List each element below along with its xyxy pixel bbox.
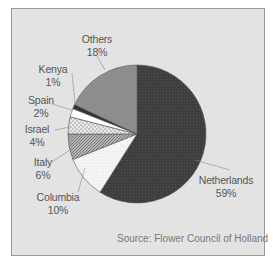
label-kenya: Kenya 1%: [34, 63, 72, 89]
label-others: Others 18%: [77, 33, 117, 59]
label-netherlands-pct: 59%: [194, 187, 258, 200]
label-spain-name: Spain: [23, 94, 59, 107]
label-others-pct: 18%: [77, 46, 117, 59]
leader-netherlands: [195, 160, 230, 170]
label-netherlands-name: Netherlands: [194, 174, 258, 187]
label-italy: Italy 6%: [28, 156, 58, 182]
label-kenya-name: Kenya: [34, 63, 72, 76]
label-israel-name: Israel: [20, 123, 54, 136]
leader-israel: [55, 127, 70, 130]
label-italy-pct: 6%: [28, 169, 58, 182]
label-spain: Spain 2%: [23, 94, 59, 120]
label-israel: Israel 4%: [20, 123, 54, 149]
source-caption: Source: Flower Council of Holland: [117, 233, 268, 244]
label-israel-pct: 4%: [20, 136, 54, 149]
label-columbia-name: Columbia: [33, 191, 83, 204]
label-columbia-pct: 10%: [33, 204, 83, 217]
label-netherlands: Netherlands 59%: [194, 174, 258, 200]
leader-kenya: [72, 73, 75, 104]
label-columbia: Columbia 10%: [33, 191, 83, 217]
pie-slices: [68, 65, 206, 203]
label-kenya-pct: 1%: [34, 76, 72, 89]
label-spain-pct: 2%: [23, 107, 59, 120]
label-others-name: Others: [77, 33, 117, 46]
label-italy-name: Italy: [28, 156, 58, 169]
